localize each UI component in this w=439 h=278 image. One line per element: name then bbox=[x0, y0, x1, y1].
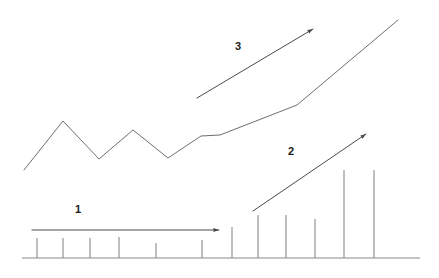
annotation-label-2: 2 bbox=[288, 145, 294, 157]
figure-background bbox=[0, 0, 439, 278]
trend-diagram-figure: 123 bbox=[0, 0, 439, 278]
annotation-label-3: 3 bbox=[235, 40, 241, 52]
diagram-canvas: 123 bbox=[0, 0, 439, 278]
annotation-label-1: 1 bbox=[75, 203, 81, 215]
